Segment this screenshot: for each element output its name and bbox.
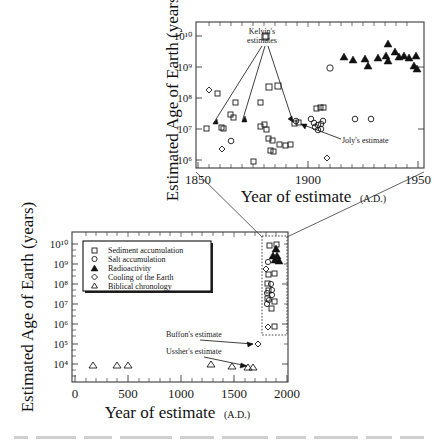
- detail-series-radioactivity: [340, 40, 421, 72]
- main-ytick-1e10: 10¹⁰: [50, 238, 69, 250]
- main-top-ticks: [86, 232, 276, 237]
- main-x-axis-title-suffix: (A.D.): [224, 409, 250, 421]
- main-series-cluster: [263, 242, 283, 330]
- main-xtick-2000: 2000: [274, 386, 300, 401]
- main-x-axis-title: Year of estimate: [105, 403, 216, 422]
- main-xtick-500: 500: [118, 386, 138, 401]
- figure-age-of-earth: 10¹⁰ 10⁹ 10⁸ 10⁷ 10⁶ 1850 1900 1950 Esti…: [0, 0, 439, 441]
- detail-plot: 10¹⁰ 10⁹ 10⁸ 10⁷ 10⁶ 1850 1900 1950 Esti…: [163, 0, 431, 206]
- main-y-axis-title: Estimated Age of Earth (years): [18, 202, 37, 413]
- detail-y-ticks: [196, 36, 202, 160]
- annotation-joly: Joly's estimate: [342, 136, 389, 145]
- annotation-buffon-leader: [200, 340, 253, 347]
- main-y-ticks: [72, 244, 78, 364]
- detail-series-sediment: [204, 33, 326, 164]
- main-x-ticks: [75, 375, 287, 382]
- legend-label-salt: Salt accumulation: [108, 255, 166, 264]
- main-xtick-1500: 1500: [221, 386, 247, 401]
- figure-canvas: 10¹⁰ 10⁹ 10⁸ 10⁷ 10⁶ 1850 1900 1950 Esti…: [0, 0, 439, 441]
- main-ytick-1e4: 10⁴: [53, 358, 68, 370]
- legend: Sediment accumulation Salt accumulation …: [83, 241, 213, 293]
- main-plot: 10¹⁰ 10⁹ 10⁸ 10⁷ 10⁶ 10⁵ 10⁴ 0 500 1000 …: [18, 202, 300, 422]
- detail-y-axis-title: Estimated Age of Earth (years): [163, 0, 182, 201]
- main-series-biblical: [89, 361, 257, 370]
- detail-xtick-1900: 1900: [295, 172, 321, 187]
- main-ytick-1e5: 10⁵: [53, 338, 68, 350]
- annotation-kelvin-leaders: [213, 46, 293, 124]
- main-ytick-1e9: 10⁹: [53, 258, 68, 270]
- annotation-kelvin-line2: estimates: [247, 36, 277, 45]
- detail-right-ticks: [418, 67, 424, 129]
- detail-x-ticks: [198, 161, 418, 168]
- legend-label-radioactivity: Radioactivity: [108, 264, 151, 273]
- annotation-ussher: Ussher's estimate: [166, 347, 222, 356]
- main-y-minor-ticks: [72, 250, 76, 376]
- main-xtick-0: 0: [72, 386, 79, 401]
- annotation-buffon: Buffon's estimate: [166, 330, 222, 339]
- caption-fragment: [14, 436, 424, 439]
- detail-top-ticks: [209, 22, 407, 27]
- detail-x-axis-title-suffix: (A.D.): [360, 193, 386, 205]
- main-ytick-1e8: 10⁸: [53, 278, 68, 290]
- main-ytick-1e7: 10⁷: [53, 298, 68, 310]
- detail-x-axis-title: Year of estimate: [241, 187, 352, 206]
- legend-label-biblical: Biblical chronology: [108, 282, 172, 291]
- legend-label-cooling: Cooling of the Earth: [108, 273, 174, 282]
- main-xtick-1000: 1000: [168, 386, 194, 401]
- detail-series-salt: [228, 65, 374, 144]
- main-series-buffon: [255, 341, 261, 347]
- legend-label-sediment: Sediment accumulation: [108, 246, 183, 255]
- main-ytick-1e6: 10⁶: [53, 318, 68, 330]
- annotation-kelvin-line1: Kelvin's: [249, 27, 275, 36]
